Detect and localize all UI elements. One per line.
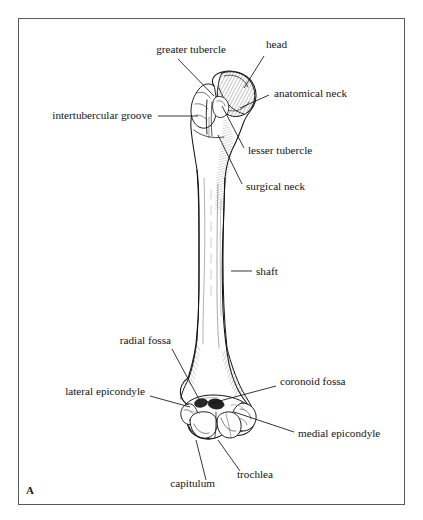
label-lesser-tubercle: lesser tubercle [248,145,312,156]
label-head: head [0,39,287,50]
label-lateral-epicondyle: lateral epicondyle [0,386,145,397]
label-intertubercular-groove: intertubercular groove [0,110,152,121]
label-shaft: shaft [256,266,278,277]
label-trochlea: trochlea [237,469,273,480]
label-radial-fossa: radial fossa [0,335,171,346]
label-surgical-neck: surgical neck [246,181,305,192]
panel-label: A [26,484,34,496]
label-coronoid-fossa: coronoid fossa [280,376,346,387]
figure-page: greater tubercleheadanatomical neckinter… [0,0,423,520]
label-medial-epicondyle: medial epicondyle [298,428,380,439]
label-anatomical-neck: anatomical neck [274,88,347,99]
